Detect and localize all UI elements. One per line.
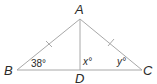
triangle-diagram: A B C D 38° x° y° <box>0 0 157 84</box>
angle-label-y: y° <box>116 56 126 67</box>
vertex-label-c: C <box>143 63 153 78</box>
segment-ab <box>17 19 80 70</box>
angle-label-b: 38° <box>31 58 46 69</box>
vertex-label-a: A <box>74 2 84 17</box>
angle-label-x: x° <box>82 56 92 67</box>
vertex-label-d: D <box>75 71 84 84</box>
vertex-label-b: B <box>4 63 13 78</box>
